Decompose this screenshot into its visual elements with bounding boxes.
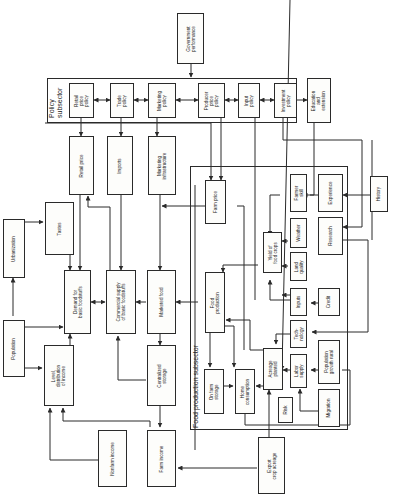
- node-government-performance: Government performance: [177, 13, 204, 64]
- node-farmer-skill: Farmer skill: [290, 174, 307, 212]
- node-inputs: Inputs: [290, 288, 307, 316]
- node-history: History: [370, 176, 388, 212]
- node-food-production: Food production: [205, 272, 225, 333]
- node-labor-supply: Labor supply: [290, 354, 307, 388]
- node-investment-policy: Investment policy: [274, 83, 297, 118]
- node-marketed-food: Marketed food: [147, 270, 176, 334]
- node-technology: Tech- nology: [290, 320, 307, 348]
- node-home-consumption: Home consumption: [235, 369, 255, 414]
- node-trade-policy: Trade policy: [110, 83, 134, 118]
- node-imports: Imports: [107, 136, 133, 195]
- node-demand-basic-foodstuffs: Demand for basic foodstuffs: [64, 270, 91, 334]
- food-production-subsector-title: Food production subsector: [192, 345, 200, 428]
- node-research: Research: [318, 217, 343, 255]
- node-marketing-policy: Marketing policy: [148, 83, 176, 118]
- node-commercial-supply: Commercial supply of basic foodstuffs: [106, 270, 136, 334]
- node-risk: Risk: [278, 397, 293, 423]
- node-retail-price-policy: Retail price policy: [69, 83, 94, 118]
- node-export-crop-acreage: Export crop acreage: [258, 437, 285, 494]
- node-producer-price-policy: Producer price policy: [198, 83, 225, 118]
- node-input-policy: Input policy: [238, 83, 260, 118]
- node-credit: Credit: [318, 288, 340, 316]
- node-centralized-storage: Centralized storage: [147, 345, 176, 406]
- node-yield-food-crops: Yield of food crops: [263, 232, 282, 273]
- food-system-diagram: Policy subsector Food production subsect…: [0, 0, 395, 498]
- node-on-farm-storage: On farm storage: [204, 369, 224, 414]
- node-acreage-planted: Acreage planted: [263, 348, 283, 390]
- policy-subsector-title: Policy subsector: [48, 88, 64, 118]
- node-weather: Weather: [290, 218, 307, 248]
- node-urbanization: Urbanization: [3, 219, 25, 278]
- node-education-extension: Education and extension: [307, 78, 331, 123]
- node-farm-income: Farm income: [147, 430, 176, 487]
- node-marketing-infrastructure: Marketing infrastructure: [148, 136, 176, 195]
- node-retail-price: Retail price: [69, 136, 94, 195]
- node-population-growth-rural: Population growth rural: [318, 340, 340, 384]
- node-nonfarm-income: Nonfarm income: [98, 430, 127, 487]
- node-tastes: Tastes: [45, 202, 74, 255]
- node-land-quality: Land quality: [290, 252, 307, 281]
- node-experience: Experience: [318, 174, 343, 212]
- node-migration: Migration: [318, 389, 340, 427]
- node-population: Population: [3, 320, 25, 377]
- node-level-distribution-income: Level, distribution of income: [44, 345, 74, 406]
- node-farm-price: Farm price: [205, 180, 226, 224]
